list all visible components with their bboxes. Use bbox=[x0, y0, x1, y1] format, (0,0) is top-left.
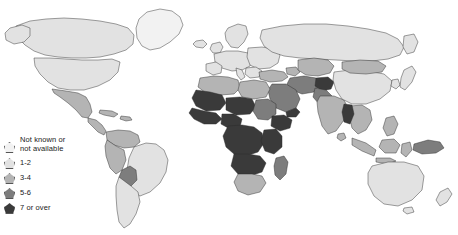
legend-label-5-6: 5-6 bbox=[20, 189, 31, 198]
legend-swatch-not-known bbox=[4, 142, 15, 153]
legend-label-3-4: 3-4 bbox=[20, 174, 31, 183]
region-central-asia bbox=[298, 58, 334, 76]
legend-item-5-6: 5-6 bbox=[4, 188, 100, 199]
legend-label-not-known-line2: not available bbox=[20, 144, 63, 153]
region-niger-chad bbox=[226, 97, 256, 115]
legend-swatch-7-or-over bbox=[4, 203, 15, 214]
legend-label-1-2: 1-2 bbox=[20, 159, 31, 168]
legend-item-3-4: 3-4 bbox=[4, 173, 100, 184]
legend-label-7-or-over: 7 or over bbox=[20, 204, 51, 213]
legend-label-not-known: Not known or not available bbox=[20, 136, 65, 153]
legend-item-not-known: Not known or not available bbox=[4, 136, 100, 153]
legend-swatch-5-6 bbox=[4, 188, 15, 199]
legend-swatch-1-2 bbox=[4, 158, 15, 169]
map-legend: Not known or not available 1-2 3-4 5-6 7… bbox=[4, 136, 100, 218]
world-map-figure: Not known or not available 1-2 3-4 5-6 7… bbox=[0, 0, 458, 235]
legend-item-7-or-over: 7 or over bbox=[4, 203, 100, 214]
region-mongolia bbox=[342, 60, 386, 74]
region-libya-egypt bbox=[238, 80, 270, 99]
legend-swatch-3-4 bbox=[4, 173, 15, 184]
legend-item-1-2: 1-2 bbox=[4, 158, 100, 169]
